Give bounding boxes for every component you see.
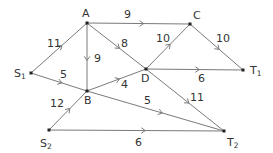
node-t2: T2	[223, 130, 239, 151]
edge-line	[146, 69, 224, 131]
network-diagram: 115129984510611106 S1S2ABCDT1T2	[0, 0, 273, 153]
node-a: A	[82, 7, 90, 25]
edge-d-c: 10	[146, 24, 190, 69]
edge-line	[87, 69, 146, 91]
node-label: A	[82, 7, 90, 20]
edge-line	[146, 69, 243, 70]
node-c: C	[189, 9, 202, 26]
node-label: D	[141, 72, 149, 85]
edge-b-d: 4	[87, 69, 146, 91]
edge-weight-label: 5	[60, 68, 67, 81]
edge-weight-label: 11	[190, 91, 204, 104]
edge-line	[87, 23, 190, 24]
edge-d-t1: 6	[146, 67, 243, 85]
edge-line	[190, 24, 243, 70]
edge-s1-a: 11	[31, 23, 87, 73]
edge-weight-label: 4	[121, 78, 128, 91]
node-label: S2	[40, 137, 52, 151]
edge-weight-label: 10	[216, 32, 230, 45]
edge-weight-label: 9	[94, 52, 101, 65]
node-dot	[189, 23, 192, 26]
node-label: T2	[226, 136, 239, 150]
edge-s2-t2: 6	[49, 128, 224, 149]
edge-weight-label: 8	[121, 37, 128, 50]
edge-weight-label: 12	[50, 97, 64, 110]
edges-layer: 115129984510611106	[31, 8, 243, 149]
node-label: C	[193, 9, 201, 22]
node-label: T1	[249, 64, 262, 78]
edge-c-t1: 10	[190, 24, 243, 70]
edge-weight-label: 9	[124, 8, 131, 21]
node-label: S1	[14, 67, 26, 81]
edge-weight-label: 5	[144, 94, 151, 107]
node-s2: S2	[40, 129, 52, 152]
edge-s2-b: 12	[49, 91, 87, 130]
node-dot	[223, 130, 226, 133]
edge-line	[49, 130, 224, 131]
edge-line	[146, 24, 190, 69]
node-label: B	[84, 94, 92, 107]
edge-weight-label: 6	[135, 136, 142, 149]
edge-s1-b: 5	[31, 68, 87, 91]
edge-a-c: 9	[87, 8, 190, 26]
edge-d-t2: 11	[146, 69, 224, 131]
edge-weight-label: 6	[198, 72, 205, 85]
node-dot	[86, 90, 89, 93]
node-t1: T1	[242, 64, 262, 78]
node-dot	[48, 129, 51, 132]
edge-a-b: 9	[84, 23, 101, 91]
node-dot	[86, 22, 89, 25]
edge-weight-label: 11	[47, 37, 61, 50]
node-s1: S1	[14, 67, 33, 81]
node-dot	[145, 68, 148, 71]
node-dot	[242, 69, 245, 72]
node-dot	[30, 72, 33, 75]
edge-line	[31, 73, 87, 91]
edge-weight-label: 10	[156, 32, 170, 45]
